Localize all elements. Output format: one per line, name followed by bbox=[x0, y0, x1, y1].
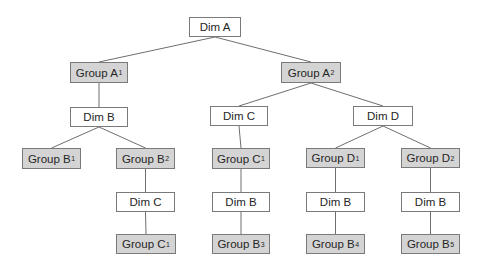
edge-dimA-groupA2 bbox=[215, 37, 311, 62]
node-groupC1_b: Group C1 bbox=[116, 234, 176, 254]
node-label: Group B bbox=[312, 238, 355, 250]
node-subscript: 4 bbox=[355, 241, 359, 248]
node-groupA1: Group A1 bbox=[70, 62, 128, 83]
node-dimB_3: Dim B bbox=[306, 192, 365, 212]
edge-dimD-groupD2 bbox=[383, 126, 431, 148]
node-label: Dim B bbox=[83, 111, 114, 123]
node-groupB4: Group B4 bbox=[306, 234, 365, 254]
node-groupB5: Group B5 bbox=[401, 234, 460, 254]
node-dimB_2: Dim B bbox=[212, 192, 270, 212]
node-label: Dim C bbox=[223, 110, 255, 122]
node-dimA: Dim A bbox=[189, 17, 241, 37]
node-label: Group B bbox=[407, 238, 450, 250]
edge-dimC_1-groupC1_a bbox=[239, 126, 241, 148]
node-label: Group C bbox=[217, 153, 260, 165]
node-groupB2: Group B2 bbox=[116, 148, 175, 169]
node-label: Dim D bbox=[367, 110, 399, 122]
node-groupB1: Group B1 bbox=[22, 148, 81, 169]
node-label: Dim B bbox=[320, 196, 351, 208]
edge-groupA2-dimD bbox=[311, 83, 383, 106]
node-subscript: 2 bbox=[165, 155, 169, 162]
tree-edges bbox=[0, 0, 482, 269]
node-groupD1: Group D1 bbox=[306, 148, 365, 168]
edge-groupA2-dimC_1 bbox=[239, 83, 311, 106]
node-subscript: 2 bbox=[330, 69, 334, 76]
node-groupD2: Group D2 bbox=[401, 148, 460, 168]
node-subscript: 1 bbox=[356, 155, 360, 162]
node-subscript: 2 bbox=[451, 155, 455, 162]
node-dimB_4: Dim B bbox=[401, 192, 460, 212]
node-label: Group A bbox=[76, 67, 118, 79]
node-label: Dim A bbox=[200, 21, 231, 33]
node-dimC_1: Dim C bbox=[210, 106, 268, 126]
node-subscript: 1 bbox=[166, 241, 170, 248]
node-label: Group B bbox=[28, 153, 71, 165]
node-label: Group D bbox=[312, 152, 355, 164]
edge-dimC_2-groupC1_b bbox=[146, 212, 147, 234]
node-subscript: 5 bbox=[450, 241, 454, 248]
node-dimD: Dim D bbox=[353, 106, 413, 126]
node-label: Group A bbox=[288, 67, 330, 79]
edge-dimD-groupD1 bbox=[336, 126, 384, 148]
node-subscript: 1 bbox=[261, 155, 265, 162]
node-label: Group D bbox=[407, 152, 450, 164]
node-label: Group B bbox=[122, 153, 165, 165]
node-label: Group C bbox=[122, 238, 165, 250]
node-dimB_1: Dim B bbox=[70, 107, 128, 127]
edge-dimB_1-groupB1 bbox=[52, 127, 100, 148]
node-groupB3: Group B3 bbox=[212, 234, 270, 254]
node-label: Dim B bbox=[415, 196, 446, 208]
node-label: Dim B bbox=[225, 196, 256, 208]
node-subscript: 1 bbox=[118, 69, 122, 76]
node-groupC1_a: Group C1 bbox=[212, 148, 270, 169]
edge-dimB_1-groupB2 bbox=[99, 127, 146, 148]
node-subscript: 3 bbox=[261, 241, 265, 248]
node-subscript: 1 bbox=[71, 155, 75, 162]
edge-dimA-groupA1 bbox=[99, 37, 215, 62]
node-groupA2: Group A2 bbox=[281, 62, 341, 83]
node-dimC_2: Dim C bbox=[116, 192, 175, 212]
dimension-hierarchy-diagram: Dim AGroup A1Group A2Dim BDim CDim DGrou… bbox=[0, 0, 482, 269]
node-label: Dim C bbox=[130, 196, 162, 208]
node-label: Group B bbox=[217, 238, 260, 250]
